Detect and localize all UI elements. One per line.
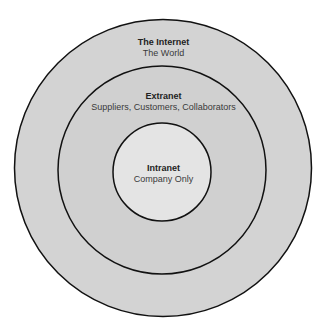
intranet-title: Intranet [0, 163, 327, 174]
internet-subtitle: The World [0, 48, 327, 59]
extranet-title: Extranet [0, 91, 327, 102]
intranet-subtitle: Company Only [0, 174, 327, 185]
extranet-subtitle: Suppliers, Customers, Collaborators [0, 102, 327, 113]
internet-title: The Internet [0, 37, 327, 48]
extranet-label: Extranet Suppliers, Customers, Collabora… [0, 91, 327, 113]
internet-label: The Internet The World [0, 37, 327, 59]
intranet-label: Intranet Company Only [0, 163, 327, 185]
